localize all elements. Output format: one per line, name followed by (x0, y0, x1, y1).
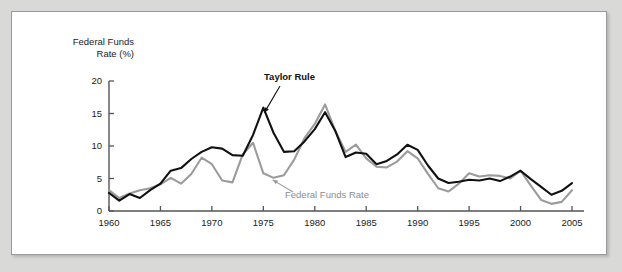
y-tick-label: 15 (69, 108, 102, 119)
x-tick-label: 1970 (190, 217, 234, 228)
series-line-federal-funds-rate (109, 104, 572, 203)
x-tick-label: 1995 (447, 217, 491, 228)
figure-panel: Federal Funds Rate (%) Taylor Rule Feder… (11, 11, 607, 255)
y-tick-label: 10 (69, 140, 102, 151)
y-tick-label: 5 (69, 173, 102, 184)
annotation-arrow-federal-funds-rate (273, 180, 293, 192)
annotation-arrow-taylor-rule (264, 86, 280, 113)
x-tick-label: 1990 (396, 217, 440, 228)
x-tick-label: 2005 (550, 217, 594, 228)
chart-axes (109, 81, 584, 211)
y-tick-label: 20 (69, 75, 102, 86)
x-tick-label: 1980 (293, 217, 337, 228)
y-tick-label: 0 (69, 205, 102, 216)
x-tick-label: 1975 (241, 217, 285, 228)
x-tick-label: 1965 (138, 217, 182, 228)
x-tick-label: 2000 (499, 217, 543, 228)
x-tick-label: 1985 (344, 217, 388, 228)
series-line-taylor-rule (109, 108, 572, 201)
x-tick-label: 1960 (87, 217, 131, 228)
chart-series (109, 104, 572, 203)
